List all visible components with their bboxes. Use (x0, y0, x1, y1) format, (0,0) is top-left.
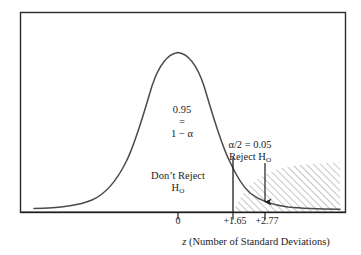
tick-label-critical-value: +1.65 (223, 215, 246, 226)
reject-null-subscript: O (266, 156, 271, 164)
confidence-expression: 1 − α (171, 128, 193, 140)
x-axis-title-text: (Number of Standard Deviations) (186, 236, 329, 247)
confidence-value: 0.95 (171, 104, 193, 116)
tick-label-zero: 0 (176, 215, 181, 226)
alpha-half-value: α/2 = 0.05 (228, 139, 271, 151)
rejection-region-annotation: α/2 = 0.05 Reject HO (228, 139, 271, 163)
confidence-level-annotation: 0.95 = 1 − α (171, 104, 193, 140)
tick-label-test-statistic: +2.77 (255, 215, 278, 226)
dont-reject-null-text: H (172, 182, 180, 193)
x-axis-title: z (Number of Standard Deviations) (182, 236, 330, 248)
dont-reject-text: Don’t Reject (151, 170, 205, 182)
acceptance-region-annotation: Don’t Reject HO (151, 170, 205, 194)
equals-sign: = (171, 116, 193, 128)
normal-distribution-figure: 0.95 = 1 − α α/2 = 0.05 Reject HO Don’t … (0, 0, 361, 255)
reject-null-text: Reject H (229, 151, 266, 162)
dont-reject-null-label: HO (151, 182, 205, 194)
dont-reject-null-subscript: O (179, 187, 184, 195)
reject-null-label: Reject HO (228, 151, 271, 163)
